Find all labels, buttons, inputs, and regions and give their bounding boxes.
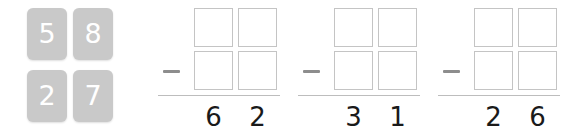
subtraction-problem-3: 2 6 bbox=[430, 0, 567, 138]
answer-rule bbox=[298, 95, 420, 96]
digit-tile-2[interactable]: 2 bbox=[27, 70, 67, 122]
result-digit-ones: 1 bbox=[378, 99, 417, 135]
answer-rule bbox=[158, 95, 280, 96]
operand-cell-ones-bottom[interactable] bbox=[238, 51, 277, 90]
operand-cell-tens-top[interactable] bbox=[194, 8, 233, 47]
answer-rule bbox=[438, 95, 560, 96]
operand-cell-tens-top[interactable] bbox=[474, 8, 513, 47]
operand-grid bbox=[194, 8, 280, 94]
result-row: 2 6 bbox=[474, 99, 562, 135]
operand-cell-tens-bottom[interactable] bbox=[334, 51, 373, 90]
digit-tile-8[interactable]: 8 bbox=[73, 8, 113, 60]
operand-cell-tens-bottom[interactable] bbox=[474, 51, 513, 90]
operand-cell-tens-top[interactable] bbox=[334, 8, 373, 47]
operand-cell-ones-bottom[interactable] bbox=[518, 51, 557, 90]
result-digit-tens: 6 bbox=[194, 99, 233, 135]
operand-cell-tens-bottom[interactable] bbox=[194, 51, 233, 90]
operand-cell-ones-top[interactable] bbox=[238, 8, 277, 47]
digit-tile-7[interactable]: 7 bbox=[73, 70, 113, 122]
operand-cell-ones-top[interactable] bbox=[518, 8, 557, 47]
result-row: 6 2 bbox=[194, 99, 282, 135]
digit-tile-palette: 5 8 2 7 bbox=[27, 8, 113, 126]
minus-icon bbox=[303, 70, 320, 73]
minus-icon bbox=[163, 70, 180, 73]
operand-cell-ones-bottom[interactable] bbox=[378, 51, 417, 90]
operand-cell-ones-top[interactable] bbox=[378, 8, 417, 47]
subtraction-problem-1: 6 2 bbox=[150, 0, 287, 138]
result-digit-tens: 2 bbox=[474, 99, 513, 135]
operand-grid bbox=[474, 8, 560, 94]
minus-icon bbox=[443, 70, 460, 73]
subtraction-problem-2: 3 1 bbox=[290, 0, 427, 138]
result-row: 3 1 bbox=[334, 99, 422, 135]
digit-tile-5[interactable]: 5 bbox=[27, 8, 67, 60]
result-digit-tens: 3 bbox=[334, 99, 373, 135]
operand-grid bbox=[334, 8, 420, 94]
result-digit-ones: 2 bbox=[238, 99, 277, 135]
result-digit-ones: 6 bbox=[518, 99, 557, 135]
